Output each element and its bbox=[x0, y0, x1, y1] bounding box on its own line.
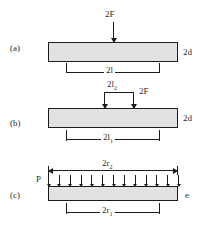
panel-c-beam bbox=[48, 186, 178, 201]
panel-label-b: (b) bbox=[10, 118, 21, 128]
panel-b-thickness-label: 2d bbox=[183, 113, 192, 123]
distributed-load-arrow bbox=[167, 175, 168, 186]
panel-a-point-load-arrow bbox=[113, 22, 114, 42]
panel-label-c: (c) bbox=[10, 190, 20, 200]
distributed-load-arrow bbox=[59, 175, 60, 186]
bracket-leg-right bbox=[159, 203, 160, 214]
distributed-load-arrow bbox=[91, 175, 92, 186]
panel-b-load-label: 2F bbox=[139, 86, 149, 96]
panel-b-inner-span-label: 2l2 bbox=[105, 79, 119, 91]
panel-c-outer-dimension-label: 2r2 bbox=[100, 158, 115, 170]
distributed-load-arrow bbox=[48, 175, 49, 186]
panel-a-span-label: 2l bbox=[104, 65, 115, 75]
bracket-leg-left bbox=[66, 203, 67, 214]
distributed-load-arrow bbox=[156, 175, 157, 186]
panel-c-right-end-label: e bbox=[185, 190, 189, 200]
panel-c-outer-dimension-line bbox=[48, 170, 178, 171]
bracket-leg-left bbox=[66, 63, 67, 73]
distributed-load-arrow bbox=[81, 175, 82, 186]
panel-b-point-load-arrow-left bbox=[104, 101, 105, 108]
distributed-load-arrow bbox=[102, 175, 103, 186]
panel-b-beam bbox=[48, 108, 178, 128]
distributed-load-arrow bbox=[178, 175, 179, 186]
distributed-load-arrow bbox=[135, 175, 136, 186]
dimension-cap-left bbox=[48, 166, 49, 175]
panel-label-a: (a) bbox=[10, 43, 20, 53]
panel-b-span-label: 2l1 bbox=[101, 132, 115, 144]
distributed-load-arrow bbox=[124, 175, 125, 186]
dimension-cap-right bbox=[177, 166, 178, 175]
panel-a-beam bbox=[48, 42, 178, 62]
bracket-leg-right bbox=[159, 130, 160, 141]
panel-a-load-label: 2F bbox=[105, 9, 115, 19]
panel-c-left-end-label: P bbox=[36, 174, 41, 184]
panel-b-load-bracket bbox=[104, 92, 134, 93]
engineering-beam-figure: (a) 2F 2d 2l (b) 2l2 2F 2d 2l1 (c) 2r2 P… bbox=[0, 0, 211, 226]
panel-a-thickness-label: 2d bbox=[183, 47, 192, 57]
panel-b-point-load-arrow-right bbox=[133, 101, 134, 108]
bracket-leg-right bbox=[159, 63, 160, 73]
distributed-load-arrow bbox=[113, 175, 114, 186]
panel-c-inner-dimension-label: 2r1 bbox=[100, 205, 115, 217]
bracket-leg-left bbox=[66, 130, 67, 141]
distributed-load-arrow bbox=[146, 175, 147, 186]
distributed-load-arrow bbox=[70, 175, 71, 186]
